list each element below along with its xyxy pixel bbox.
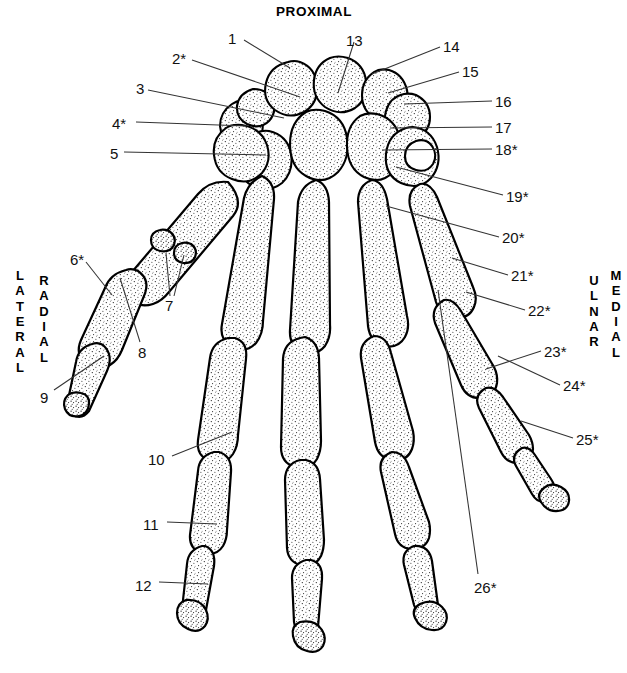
orientation-label-radial: RADIAL [36,273,52,365]
index-middle-phalanx [190,452,231,554]
page-title: PROXIMAL [276,4,352,19]
leader-line-24 [498,356,560,385]
sesamoid-bone-2 [174,243,196,263]
little-distal-tuft [539,485,569,511]
orientation-label-ulnar: ULNAR [586,273,602,350]
ring-middle-phalanx [380,452,430,549]
label-21: 21* [511,268,534,283]
label-19: 19* [506,189,529,204]
leader-line-6 [86,262,112,295]
label-25: 25* [576,432,599,447]
label-23: 23* [544,344,567,359]
middle-finger-group [281,337,325,652]
metacarpal-3 [290,180,330,354]
label-26: 26* [474,580,497,595]
middle-middle-phalanx [285,460,324,566]
index-proximal-phalanx [198,338,247,462]
label-5: 5 [110,146,118,161]
orientation-label-medial: MEDIAL [608,268,624,360]
ring-proximal-phalanx [361,336,414,460]
label-14: 14 [443,39,460,54]
index-distal-tuft [177,600,208,631]
ring-distal-tuft [414,602,447,631]
label-7: 7 [165,298,173,313]
bone-carpal-8 [290,110,348,180]
hand-skeleton-illustration [0,0,627,673]
middle-distal-tuft [293,621,325,651]
label-16: 16 [495,94,512,109]
sesamoid-bone-1 [151,230,175,252]
leader-line-1 [244,40,290,68]
bone-carpal-4 [314,57,367,113]
label-10: 10 [148,452,165,467]
label-24: 24* [563,378,586,393]
ring-finger-group [361,336,447,630]
label-1: 1 [228,31,236,46]
bone-carpal-3 [265,61,317,116]
bone-carpal-trapezium [214,125,269,182]
metacarpal-5 [409,184,475,318]
metacarpal-4 [358,180,408,347]
middle-proximal-phalanx [281,337,321,468]
metacarpals-group [126,176,476,354]
label-11: 11 [143,517,159,532]
index-finger-group [177,338,246,631]
label-12: 12 [135,578,152,593]
thumb-distal-tuft [64,392,89,416]
figure-page: PROXIMAL LATERALRADIALULNARMEDIAL 12*34*… [0,0,627,673]
label-4: 4* [112,116,126,131]
label-9: 9 [40,390,48,405]
leader-line-23 [486,351,541,369]
label-20: 20* [502,230,525,245]
label-6: 6* [70,252,84,267]
label-3: 3 [136,81,144,96]
label-22: 22* [528,303,551,318]
orientation-label-lateral: LATERAL [12,268,28,375]
label-17: 17 [495,120,512,135]
bone-carpal-hamate-hook [405,140,435,171]
label-15: 15 [462,64,479,79]
label-13: 13 [346,33,363,48]
label-18: 18* [495,142,518,157]
leader-line-14 [372,47,440,74]
label-2: 2* [172,51,186,66]
label-8: 8 [138,345,146,360]
